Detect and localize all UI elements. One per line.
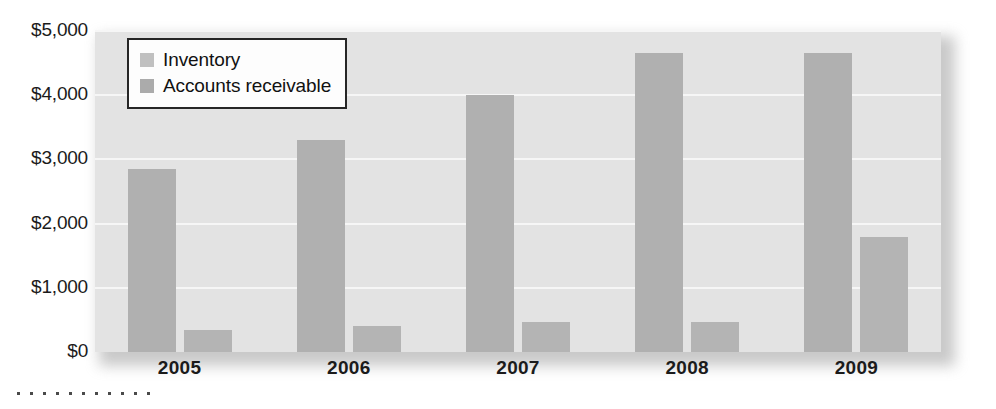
- legend-swatch-icon: [140, 79, 154, 93]
- bar-inventory-2006: [297, 140, 345, 352]
- y-axis-tick-label: $1,000: [2, 276, 88, 298]
- gridline: [95, 30, 941, 32]
- x-axis-tick-label: 2008: [602, 357, 772, 379]
- bar-inventory-2009: [804, 53, 852, 352]
- legend-item-label: Inventory: [163, 49, 240, 71]
- x-axis-tick-label: 2007: [433, 357, 603, 379]
- bar-accounts-receivable-2006: [353, 326, 401, 352]
- rule-dot: [147, 392, 150, 395]
- dotted-rule-decoration: [17, 392, 150, 395]
- y-axis-tick-label: $2,000: [2, 212, 88, 234]
- rule-dot: [121, 392, 124, 395]
- y-axis-tick-label: $0: [2, 340, 88, 362]
- rule-dot: [82, 392, 85, 395]
- rule-dot: [108, 392, 111, 395]
- chart-page: $0$1,000$2,000$3,000$4,000$5,000 2005200…: [0, 0, 996, 409]
- rule-dot: [30, 392, 33, 395]
- rule-dot: [43, 392, 46, 395]
- y-axis-tick-label: $5,000: [2, 19, 88, 41]
- x-axis-tick-label: 2005: [95, 357, 265, 379]
- x-axis-tick-label: 2006: [264, 357, 434, 379]
- legend-swatch-icon: [140, 53, 154, 67]
- y-axis-tick-label: $3,000: [2, 147, 88, 169]
- rule-dot: [56, 392, 59, 395]
- legend-item: Inventory: [140, 47, 331, 73]
- chart-legend: InventoryAccounts receivable: [127, 38, 347, 109]
- rule-dot: [17, 392, 20, 395]
- bar-accounts-receivable-2005: [184, 330, 232, 352]
- bar-inventory-2008: [635, 53, 683, 352]
- rule-dot: [95, 392, 98, 395]
- bar-chart-figure: $0$1,000$2,000$3,000$4,000$5,000 2005200…: [0, 0, 996, 409]
- y-axis-tick-label: $4,000: [2, 83, 88, 105]
- legend-item-label: Accounts receivable: [163, 75, 331, 97]
- bar-inventory-2005: [128, 169, 176, 352]
- x-axis-tick-label: 2009: [771, 357, 941, 379]
- rule-dot: [134, 392, 137, 395]
- bar-inventory-2007: [466, 95, 514, 352]
- bar-accounts-receivable-2008: [691, 322, 739, 352]
- bar-accounts-receivable-2009: [860, 237, 908, 352]
- legend-item: Accounts receivable: [140, 73, 331, 99]
- rule-dot: [69, 392, 72, 395]
- bar-accounts-receivable-2007: [522, 322, 570, 352]
